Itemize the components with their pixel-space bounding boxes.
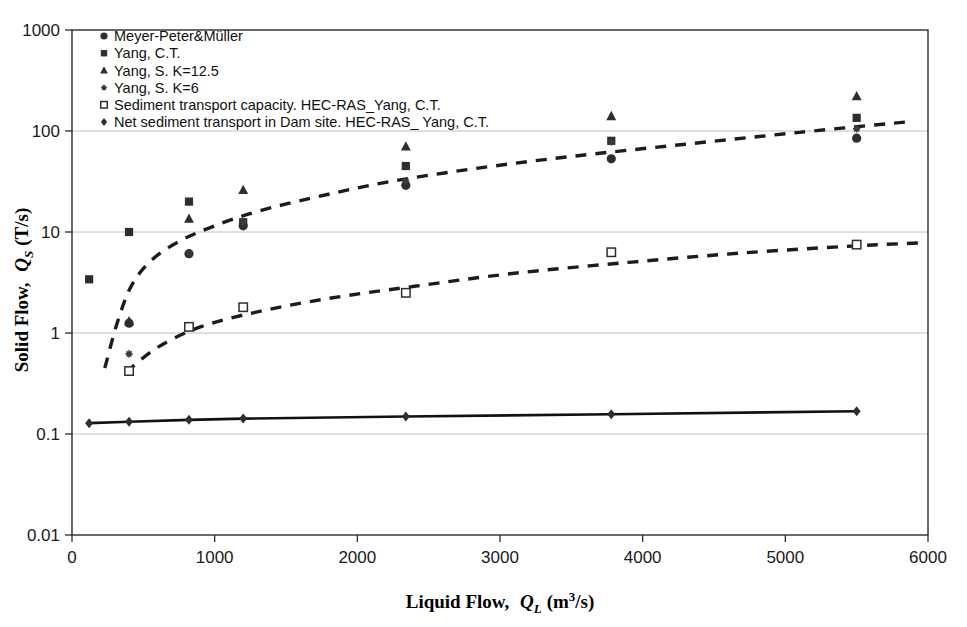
y-tick-label: 0.01 <box>27 526 60 545</box>
x-axis-title-symbol: Q <box>520 591 534 612</box>
data-point-filled-square <box>402 162 410 170</box>
legend-item: Sediment transport capacity. HEC-RAS_Yan… <box>101 97 441 113</box>
data-point-filled-diamond <box>402 412 410 422</box>
legend-marker-open-square <box>101 102 108 109</box>
legend-label: Meyer-Peter&Müller <box>114 28 243 44</box>
y-tick-label: 100 <box>32 122 60 141</box>
upper-dashed-trend <box>105 121 914 368</box>
data-point-filled-square <box>125 228 133 236</box>
gridlines <box>72 131 928 434</box>
x-tick-label: 4000 <box>624 548 662 567</box>
solid-flow-vs-liquid-flow-chart: 0100020003000400050006000 0.010.11101001… <box>0 0 967 627</box>
legend-label: Yang, S. K=12.5 <box>114 63 219 79</box>
data-point-filled-diamond <box>239 414 247 424</box>
chart-figure: 0100020003000400050006000 0.010.11101001… <box>0 0 967 627</box>
data-point-filled-circle <box>852 134 861 143</box>
legend-marker-filled-square <box>101 50 107 56</box>
legend-item: Meyer-Peter&Müller <box>100 28 243 44</box>
data-point-open-square <box>402 289 410 297</box>
data-point-open-square <box>607 248 615 256</box>
x-tick-label: 5000 <box>766 548 804 567</box>
legend-label: Net sediment transport in Dam site. HEC-… <box>114 114 489 130</box>
legend-marker-filled-triangle <box>100 66 108 73</box>
y-axis-title-symbol: Q <box>11 258 32 272</box>
legend-item: Yang, C.T. <box>101 45 181 61</box>
data-point-filled-diamond <box>607 409 615 419</box>
chart-legend: Meyer-Peter&MüllerYang, C.T.Yang, S. K=1… <box>100 28 489 130</box>
y-tick-label: 1000 <box>22 21 60 40</box>
legend-marker-plus <box>101 85 107 91</box>
x-axis-units-pre: (m <box>547 591 569 613</box>
x-tick-label: 0 <box>67 548 76 567</box>
svg-text:Solid Flow, QS(T/s): Solid Flow, QS(T/s) <box>11 208 36 372</box>
data-point-markers <box>85 91 862 428</box>
y-tick-label: 0.1 <box>36 425 60 444</box>
x-tick-label: 3000 <box>481 548 519 567</box>
trendlines <box>105 121 921 372</box>
legend-item: Net sediment transport in Dam site. HEC-… <box>101 114 489 130</box>
y-tick-label: 1 <box>51 324 60 343</box>
x-tick-label: 6000 <box>909 548 947 567</box>
x-axis-title-main: Liquid Flow, <box>406 591 510 612</box>
data-point-filled-triangle <box>238 185 248 194</box>
y-axis-title-subscript: S <box>21 251 36 258</box>
data-point-filled-triangle <box>852 91 862 100</box>
x-axis-title: Liquid Flow, QL(m3/s) <box>406 589 595 616</box>
x-axis-units-post: /s) <box>574 591 594 613</box>
x-tick-label: 1000 <box>196 548 234 567</box>
y-axis-title-units: (T/s) <box>11 208 33 246</box>
data-point-plus <box>402 177 409 184</box>
data-point-filled-diamond <box>85 418 93 428</box>
data-point-filled-triangle <box>606 111 616 120</box>
data-point-plus <box>125 350 132 357</box>
legend-marker-filled-circle <box>100 32 107 39</box>
data-point-filled-square <box>185 197 193 205</box>
legend-marker-filled-diamond <box>101 118 107 126</box>
y-tick-label: 10 <box>41 223 60 242</box>
legend-item: Yang, S. K=12.5 <box>100 63 219 79</box>
data-point-filled-diamond <box>185 415 193 425</box>
data-point-plus <box>853 125 860 132</box>
legend-item: Yang, S. K=6 <box>101 80 199 96</box>
series-lines <box>89 411 857 423</box>
x-tick-label: 2000 <box>338 548 376 567</box>
data-point-filled-square <box>853 114 861 122</box>
data-point-plus <box>240 219 247 226</box>
data-point-filled-diamond <box>853 406 861 416</box>
data-point-plus <box>608 138 615 145</box>
legend-label: Yang, S. K=6 <box>114 80 199 96</box>
y-axis-title: Solid Flow, QS(T/s) <box>11 208 36 372</box>
data-point-filled-diamond <box>125 417 133 427</box>
data-point-open-square <box>239 303 247 311</box>
data-point-open-square <box>852 240 860 248</box>
data-point-open-square <box>185 323 193 331</box>
x-axis-title-subscript: L <box>533 601 542 616</box>
svg-text:Liquid Flow, QL(m3/s): Liquid Flow, QL(m3/s) <box>406 589 595 616</box>
data-point-open-square <box>125 367 133 375</box>
y-axis-title-main: Solid Flow, <box>11 282 32 372</box>
data-point-filled-triangle <box>184 213 194 222</box>
data-point-filled-circle <box>607 154 616 163</box>
data-point-filled-triangle <box>401 141 411 150</box>
series-line-net-sediment-transport <box>89 411 857 423</box>
legend-label: Yang, C.T. <box>114 45 181 61</box>
x-axis-tick-labels: 0100020003000400050006000 <box>67 548 947 567</box>
legend-label: Sediment transport capacity. HEC-RAS_Yan… <box>114 97 441 113</box>
data-point-filled-square <box>85 275 93 283</box>
